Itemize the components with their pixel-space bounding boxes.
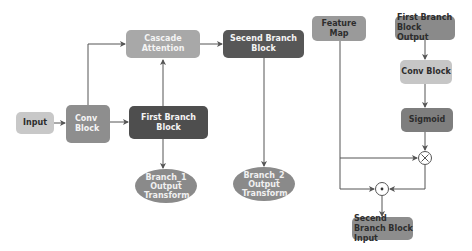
first-branch-output-node: First Branch Block Output xyxy=(395,16,455,40)
second-branch-block-label: Secend Branch Block xyxy=(223,34,304,54)
branch2-output-transform-node: Branch_2 Output Transform xyxy=(233,167,295,201)
right-conv-block-node: Conv Block xyxy=(400,60,452,84)
second-branch-input-node: Secend Branch Block Input xyxy=(352,217,413,240)
second-branch-block-node: Secend Branch Block xyxy=(223,30,304,58)
branch2-output-label: Branch_2 Output Transform xyxy=(242,171,286,198)
input-node: Input xyxy=(16,112,54,134)
conv-block-node: Conv Block xyxy=(66,105,110,143)
elementwise-dot-operator-icon xyxy=(375,182,389,196)
cascade-attention-label: Cascade Attention xyxy=(126,34,200,54)
first-branch-output-label: First Branch Block Output xyxy=(397,13,455,43)
conv-block-label: Conv Block xyxy=(75,114,104,134)
branch1-output-label: Branch_1 Output Transform xyxy=(144,173,188,200)
right-conv-block-label: Conv Block xyxy=(401,67,450,77)
feature-map-node: Feature Map xyxy=(312,16,366,41)
input-label: Input xyxy=(23,118,47,128)
multiply-operator-icon xyxy=(418,151,432,165)
branch1-output-transform-node: Branch_1 Output Transform xyxy=(135,169,197,203)
first-branch-block-label: First Branch Block xyxy=(129,113,208,133)
sigmoid-label: Sigmoid xyxy=(409,115,446,125)
feature-map-label: Feature Map xyxy=(312,19,366,39)
second-branch-input-label: Secend Branch Block Input xyxy=(354,214,413,244)
first-branch-block-node: First Branch Block xyxy=(129,106,208,139)
cascade-attention-node: Cascade Attention xyxy=(126,30,200,58)
sigmoid-node: Sigmoid xyxy=(401,108,453,132)
